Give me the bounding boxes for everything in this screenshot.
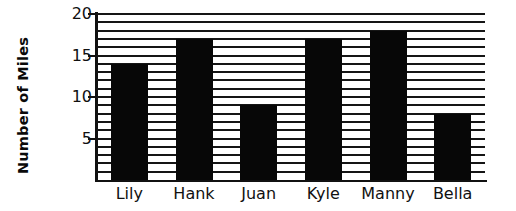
gridline xyxy=(97,79,485,81)
x-axis-tick-label: Hank xyxy=(162,183,227,205)
y-axis-tick-label: 15 xyxy=(48,48,92,64)
gridline xyxy=(97,63,485,65)
bar xyxy=(176,39,213,180)
y-axis-tick-labels: 2015105 xyxy=(48,0,92,211)
gridline xyxy=(97,104,485,106)
gridline xyxy=(97,46,485,48)
gridline xyxy=(97,113,485,115)
bar xyxy=(434,114,471,180)
bar xyxy=(305,39,342,180)
x-axis-tick-label: Lily xyxy=(97,183,162,205)
gridline xyxy=(97,96,485,98)
gridline xyxy=(97,146,485,148)
x-axis-tick-label: Bella xyxy=(420,183,485,205)
gridline xyxy=(97,162,485,164)
x-axis-tick-label: Manny xyxy=(356,183,421,205)
gridline xyxy=(97,138,485,140)
gridline xyxy=(97,38,485,40)
y-axis-tickmark xyxy=(88,96,97,98)
y-axis-tickmark xyxy=(88,55,97,57)
gridline xyxy=(97,55,485,57)
gridline xyxy=(97,71,485,73)
x-axis-tick-label: Juan xyxy=(226,183,291,205)
y-axis-tickmark xyxy=(88,13,97,15)
x-axis-tick-labels: LilyHankJuanKyleMannyBella xyxy=(97,183,485,211)
y-axis-title: Number of Miles xyxy=(0,0,46,211)
gridline xyxy=(97,129,485,131)
gridline xyxy=(97,88,485,90)
gridline xyxy=(97,30,485,32)
gridline xyxy=(97,21,485,23)
gridline xyxy=(97,171,485,173)
gridline xyxy=(97,154,485,156)
bar-chart: Number of Miles 2015105 LilyHankJuanKyle… xyxy=(0,0,516,211)
x-axis-line xyxy=(95,180,487,183)
x-axis-tick-label: Kyle xyxy=(291,183,356,205)
bar xyxy=(240,105,277,180)
bar xyxy=(370,31,407,180)
bar xyxy=(111,64,148,180)
y-axis-tick-label: 5 xyxy=(48,131,92,147)
y-axis-tick-label: 10 xyxy=(48,89,92,105)
y-axis-tick-label: 20 xyxy=(48,6,92,22)
gridline xyxy=(97,121,485,123)
y-axis-tickmark xyxy=(88,138,97,140)
plot-area xyxy=(97,14,485,180)
gridline xyxy=(97,13,485,15)
